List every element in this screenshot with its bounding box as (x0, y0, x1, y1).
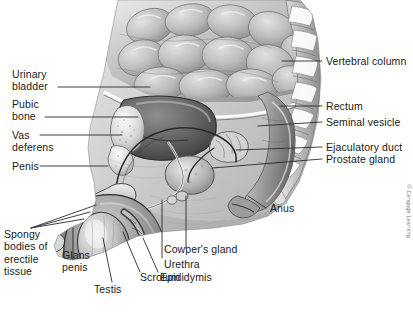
label-vas-deferens: Vas deferens (12, 129, 54, 154)
label-pubic-bone: Pubic bone (12, 98, 39, 123)
label-penis: Penis (12, 160, 39, 172)
label-testis: Testis (94, 283, 121, 295)
label-rectum: Rectum (326, 100, 363, 112)
label-urethra: Urethra (164, 258, 200, 270)
label-seminal-vesicle: Seminal vesicle (326, 116, 400, 128)
label-cowpers-gland: Cowper's gland (164, 243, 237, 255)
seminal-vesicle (209, 131, 248, 162)
label-urinary-bladder: Urinary bladder (12, 68, 48, 93)
anatomical-figure: Urinary bladder Pubic bone Vas deferens … (0, 0, 413, 320)
label-spongy-bodies: Spongy bodies of erectile tissue (4, 228, 48, 278)
label-prostate-gland: Prostate gland (326, 153, 395, 165)
label-ejaculatory-duct: Ejaculatory duct (326, 141, 402, 153)
label-anus: Anus (270, 202, 294, 214)
label-vertebral-column: Vertebral column (326, 55, 406, 67)
label-glans-penis: Glans penis (62, 249, 90, 274)
label-epididymis: Epididymis (160, 271, 212, 283)
copyright-credit: © Cengage Learning (406, 185, 412, 238)
